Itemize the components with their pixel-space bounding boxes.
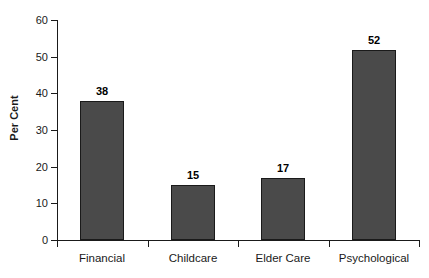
- y-tick-mark: [51, 57, 57, 58]
- y-axis-title: Per Cent: [8, 88, 20, 148]
- x-tick-mark: [148, 241, 149, 247]
- bar-psychological: [352, 50, 396, 240]
- bar-value-label: 52: [352, 34, 396, 46]
- x-category-label: Financial: [62, 252, 142, 265]
- bar-financial: [80, 101, 124, 240]
- y-tick-label: 20: [24, 162, 48, 173]
- y-tick-mark: [51, 20, 57, 21]
- bar-value-label: 38: [80, 85, 124, 97]
- y-tick-mark: [51, 203, 57, 204]
- y-axis-line: [57, 20, 58, 241]
- y-tick-label: 40: [24, 88, 48, 99]
- y-tick-label: 60: [24, 15, 48, 26]
- y-tick-mark: [51, 130, 57, 131]
- y-tick-mark: [51, 167, 57, 168]
- bar-childcare: [171, 185, 215, 240]
- x-tick-mark: [238, 241, 239, 247]
- x-tick-mark: [57, 241, 58, 247]
- bar-value-label: 17: [261, 162, 305, 174]
- y-tick-label: 0: [24, 235, 48, 246]
- x-category-label: Childcare: [153, 252, 233, 265]
- y-tick-label: 50: [24, 52, 48, 63]
- x-tick-mark: [419, 241, 420, 247]
- x-category-label: Elder Care: [243, 252, 323, 265]
- y-tick-label: 30: [24, 125, 48, 136]
- y-tick-label: 10: [24, 198, 48, 209]
- bar-value-label: 15: [171, 169, 215, 181]
- x-category-label: Psychological: [329, 252, 419, 265]
- x-tick-mark: [329, 241, 330, 247]
- bar-chart: Per Cent 0 10 20 30 40 50 60 38 15 17 52…: [0, 0, 429, 278]
- bar-elder-care: [261, 178, 305, 240]
- y-tick-mark: [51, 93, 57, 94]
